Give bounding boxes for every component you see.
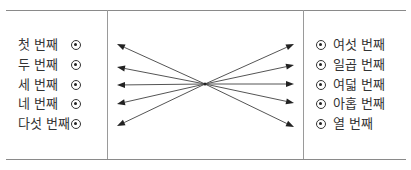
arrowhead-icon (117, 66, 125, 72)
arrow-line (124, 84, 205, 123)
arrow-line (125, 84, 205, 102)
arrow-line (205, 47, 287, 84)
arrowhead-icon (285, 44, 294, 50)
arrowhead-icon (117, 44, 126, 50)
arrowhead-icon (286, 64, 294, 70)
arrowhead-icon (286, 98, 294, 104)
arrow-line (124, 47, 205, 84)
arrowhead-icon (117, 120, 126, 126)
arrow-fan (0, 0, 411, 170)
arrow-line (205, 84, 287, 124)
arrow-line (205, 84, 286, 101)
arrow-line (125, 69, 205, 84)
arrow-line (205, 67, 286, 84)
arrowhead-icon (286, 81, 294, 87)
arrowhead-icon (117, 99, 125, 105)
arrowhead-icon (117, 82, 125, 88)
arrowhead-icon (285, 121, 294, 127)
arrow-line (125, 84, 205, 85)
center-point (204, 83, 207, 86)
